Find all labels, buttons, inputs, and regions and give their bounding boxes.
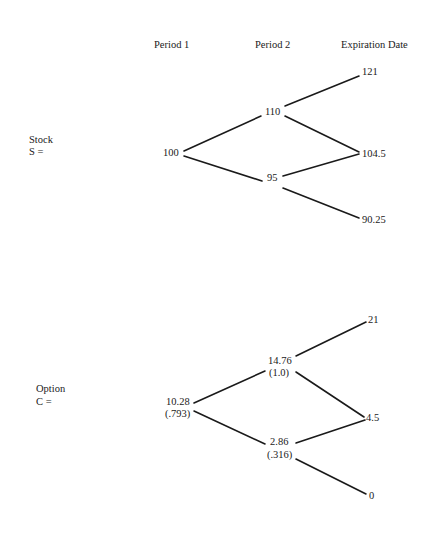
stock-node-exp-dd: 90.25 [362,214,386,226]
option-node-period2-down-hedge: (.316) [267,449,292,461]
tree-branches [0,0,432,541]
option-branch-down-up [296,420,365,443]
stock-branch-p1-down [184,156,262,181]
stock-node-exp-uu: 121 [362,66,378,78]
stock-label: Stock [29,134,53,146]
stock-symbol: S = [29,146,43,158]
option-node-period1-value: 10.28 [166,396,190,408]
option-branch-up-down [296,372,364,417]
option-branch-up-up [296,322,366,356]
stock-branch-p1-up [184,116,261,151]
stock-branch-down-down [283,188,359,218]
option-symbol: C = [36,396,52,408]
option-node-exp-dd: 0 [369,490,374,502]
option-label: Option [36,383,65,395]
option-branch-down-down [296,459,366,494]
option-branch-p1-down [194,411,265,444]
header-period-1: Period 1 [154,39,189,51]
header-expiration-date: Expiration Date [341,39,408,51]
option-node-exp-uu: 21 [368,314,379,326]
option-node-period2-up-value: 14.76 [268,355,292,367]
option-node-period1-hedge: (.793) [165,408,190,420]
stock-branch-up-down [285,116,359,152]
stock-node-period2-up: 110 [265,106,280,118]
option-node-exp-ud: 4.5 [366,412,379,424]
header-period-2: Period 2 [255,39,290,51]
stock-node-period1: 100 [163,147,179,159]
stock-node-period2-down: 95 [267,172,278,184]
stock-branch-down-up [283,154,359,176]
stock-node-exp-ud: 104.5 [362,148,386,160]
binomial-tree-diagram: Period 1 Period 2 Expiration Date Stock … [0,0,432,541]
option-node-period2-down-value: 2.86 [270,436,288,448]
option-branch-p1-up [194,371,265,403]
option-node-period2-up-hedge: (1.0) [269,367,289,379]
stock-branch-up-up [285,76,359,106]
